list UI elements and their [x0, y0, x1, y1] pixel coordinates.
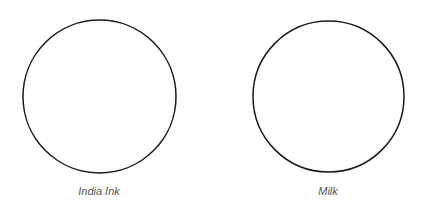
- diagram-canvas: [0, 0, 424, 213]
- india-ink-label: India Ink: [19, 185, 179, 197]
- india-ink-circle: [23, 20, 176, 173]
- milk-circle: [253, 21, 404, 172]
- milk-label: Milk: [248, 185, 408, 197]
